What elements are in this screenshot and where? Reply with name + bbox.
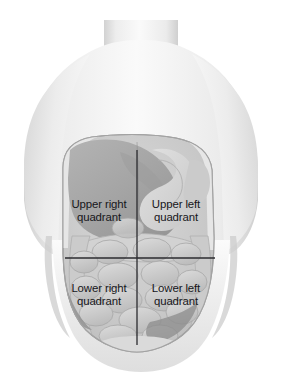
abdominal-cavity [58,135,218,357]
abdominal-quadrants-figure: Upper right quadrant Upper left quadrant… [0,0,282,381]
torso-illustration [0,0,282,381]
